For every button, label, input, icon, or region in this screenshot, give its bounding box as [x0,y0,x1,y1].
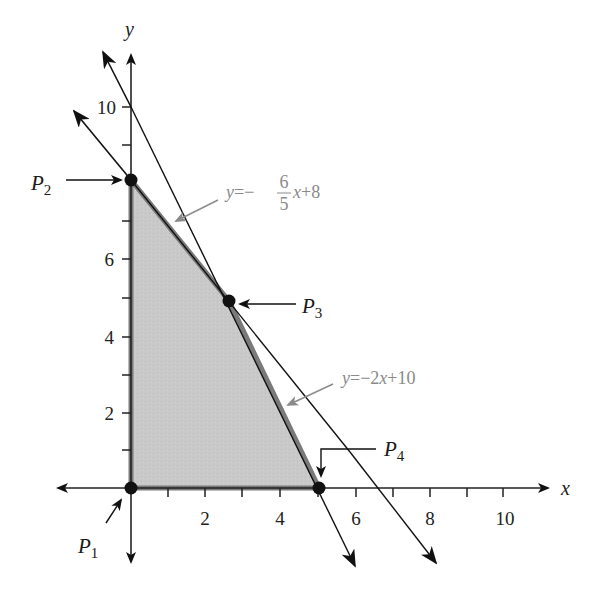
equation-label-six-fifths: y=− 6 5 x+8 [224,172,320,214]
line-six-fifths [350,452,436,563]
y-tick-label: 4 [105,327,115,348]
p4-label: P4 [383,437,405,464]
x-tick-label: 10 [496,508,515,529]
equation-label-two: y=−2x+10 [340,368,415,388]
point-p2 [125,174,138,187]
svg-text:y=−: y=− [224,182,254,202]
p2-label: P2 [30,171,51,198]
p1-label: P1 [77,534,98,561]
eq1-pointer-arrow [176,200,218,221]
point-p4 [313,482,326,495]
x-tick-label: 8 [425,508,435,529]
y-tick-label: 2 [105,403,115,424]
x-axis-label: x [560,477,570,499]
point-p3 [223,295,236,308]
point-p1 [125,482,138,495]
feasible-region [131,180,319,488]
svg-text:6: 6 [280,172,289,192]
graph-canvas: 2 4 6 8 10 2 4 6 10 x y P1 P2 [0,0,602,595]
svg-text:5: 5 [280,194,289,214]
svg-text:x+8: x+8 [292,182,320,202]
y-tick-label: 10 [97,97,116,118]
y-tick-label: 6 [105,249,115,270]
p1-pointer-arrow [106,500,121,523]
x-tick-label: 2 [200,508,210,529]
y-axis-label: y [123,18,134,41]
x-tick-label: 4 [275,508,285,529]
p3-label: P3 [301,294,322,321]
x-tick-label: 6 [351,508,361,529]
feasible-region-diagram: 2 4 6 8 10 2 4 6 10 x y P1 P2 [0,0,602,595]
p4-pointer-arrow [321,449,376,476]
